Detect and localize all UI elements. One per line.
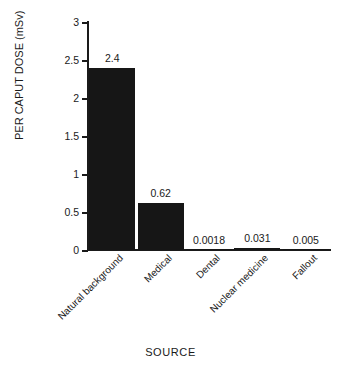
y-tick-mark xyxy=(82,98,88,100)
bar-value-label: 0.005 xyxy=(293,235,319,246)
bar-natural-background[interactable] xyxy=(89,68,135,250)
x-axis-title: SOURCE xyxy=(0,347,341,358)
y-tick-mark xyxy=(82,60,88,62)
bar-value-label: 0.0018 xyxy=(193,235,225,246)
y-tick-label: 1 xyxy=(73,169,79,180)
y-tick-label: 1.5 xyxy=(64,131,79,142)
y-axis-title: PER CAPUT DOSE (mSv) xyxy=(14,11,25,140)
chart-figure: PER CAPUT DOSE (mSv) 0 0.5 1 1.5 2 2.5 xyxy=(0,0,341,376)
y-tick-label: 0 xyxy=(73,245,79,256)
bar-value-label: 0.62 xyxy=(150,188,170,199)
bar-medical[interactable] xyxy=(138,203,184,250)
y-tick-mark xyxy=(82,250,88,252)
x-category-label: Fallout xyxy=(291,253,319,281)
plot-area: 0 0.5 1 1.5 2 2.5 3 xyxy=(88,22,330,250)
y-tick-mark xyxy=(82,212,88,214)
bar-value-label: 2.4 xyxy=(105,53,120,64)
x-category-label: Natural background xyxy=(56,253,125,322)
y-tick-mark xyxy=(82,22,88,24)
x-category-label: Dental xyxy=(195,253,223,281)
y-tick-label: 3 xyxy=(73,17,79,28)
bar-fallout[interactable] xyxy=(283,249,329,250)
y-tick-label: 0.5 xyxy=(64,207,79,218)
bar-value-label: 0.031 xyxy=(244,233,270,244)
y-tick-label: 2 xyxy=(73,93,79,104)
x-category-label: Medical xyxy=(142,253,173,284)
y-tick-mark xyxy=(82,174,88,176)
bar-nuclear-medicine[interactable] xyxy=(234,248,280,250)
y-tick-label: 2.5 xyxy=(64,55,79,66)
y-tick-mark xyxy=(82,136,88,138)
bar-dental[interactable] xyxy=(186,249,232,250)
